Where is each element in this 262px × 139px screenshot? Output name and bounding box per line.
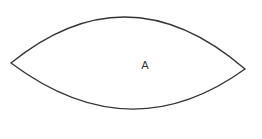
- lens-diagram: [0, 0, 262, 139]
- lens-shape: [11, 17, 245, 109]
- region-label: A: [141, 60, 149, 71]
